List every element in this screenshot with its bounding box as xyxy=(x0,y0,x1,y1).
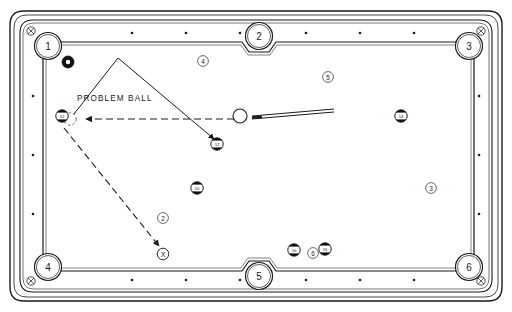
ball-lower-left[interactable]: 10 xyxy=(191,182,203,194)
spot-marker-5-label: 5 xyxy=(326,74,330,81)
pocket-1-label: 1 xyxy=(45,41,51,52)
ball-bottom-b[interactable]: 15 xyxy=(319,243,331,255)
pocket-1[interactable]: 1 xyxy=(35,33,62,60)
pool-table-diagram: 1 2 3 4 5 xyxy=(0,0,512,312)
ball-problem-number: 12 xyxy=(60,114,65,119)
pocket-6[interactable]: 6 xyxy=(456,254,483,281)
pocket-4-label: 4 xyxy=(45,262,51,273)
ball-bottom-a-number: 10 xyxy=(292,248,297,253)
ball-cue[interactable] xyxy=(233,109,247,123)
pocket-3[interactable]: 3 xyxy=(456,33,483,60)
pocket-6-label: 6 xyxy=(466,262,472,273)
pocket-3-label: 3 xyxy=(466,41,472,52)
target-x-marker: X xyxy=(157,248,169,260)
target-x-marker-label: X xyxy=(161,251,166,258)
spot-marker-3: 3 xyxy=(426,183,437,194)
spot-marker-6: 6 xyxy=(308,248,319,259)
pocket-2-label: 2 xyxy=(256,31,262,42)
pocket-5[interactable]: 5 xyxy=(246,263,273,290)
pocket-4[interactable]: 4 xyxy=(35,254,62,281)
ball-eight-corner[interactable] xyxy=(62,56,74,68)
ball-problem[interactable]: 12 xyxy=(56,110,68,122)
problem-ball-annotation: PROBLEM BALL xyxy=(77,94,153,103)
ball-object-mid-number: 12 xyxy=(215,142,220,147)
spot-marker-2-label: 2 xyxy=(161,215,165,222)
spot-marker-3-label: 3 xyxy=(429,185,433,192)
pocket-5-label: 5 xyxy=(256,271,262,282)
ball-right[interactable]: 14 xyxy=(395,110,407,122)
ball-bottom-b-number: 15 xyxy=(323,247,328,252)
ball-right-number: 14 xyxy=(399,114,404,119)
table-playing-surface xyxy=(43,42,474,271)
spot-marker-2: 2 xyxy=(158,213,169,224)
pocket-2[interactable]: 2 xyxy=(246,23,273,50)
spot-marker-6-label: 6 xyxy=(311,250,315,257)
pool-table-diagram-root: 1 2 3 4 5 xyxy=(0,0,512,312)
ball-object-mid[interactable]: 12 xyxy=(211,138,223,150)
spot-marker-5: 5 xyxy=(323,72,334,83)
spot-marker-4: 4 xyxy=(198,56,209,67)
ball-bottom-a[interactable]: 10 xyxy=(288,244,300,256)
spot-marker-4-label: 4 xyxy=(201,58,205,65)
ball-lower-left-number: 10 xyxy=(195,186,200,191)
